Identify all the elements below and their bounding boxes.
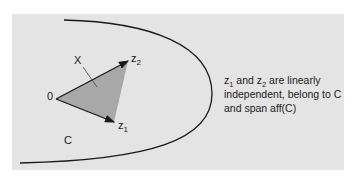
caption-line-1: z1 and z2 are linearly: [224, 73, 352, 87]
set-c-label: C: [64, 135, 72, 146]
caption: z1 and z2 are linearly independent, belo…: [224, 73, 352, 115]
z2-label: z2: [131, 53, 141, 67]
z1-label: z1: [118, 120, 128, 134]
caption-line-2: independent, belong to C: [224, 87, 352, 101]
origin-label: 0: [47, 91, 53, 102]
x-label: X: [74, 55, 81, 66]
caption-line-3: and span aff(C): [224, 101, 352, 115]
